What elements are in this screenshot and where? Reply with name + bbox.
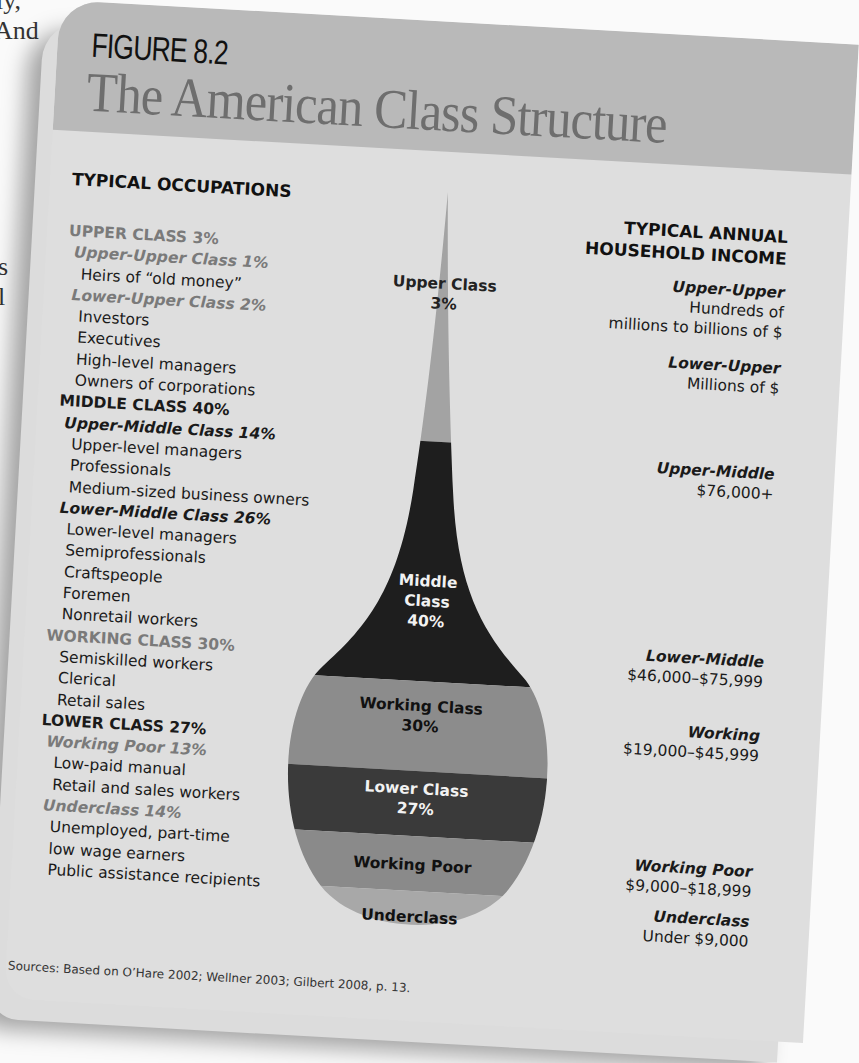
source-citation: Sources: Based on O’Hare 2002; Wellner 2… — [8, 959, 411, 995]
background-page-text: s — [0, 252, 8, 282]
background-page-text: ly, — [0, 0, 21, 16]
occupations-header: TYPICAL OCCUPATIONS — [71, 169, 292, 201]
figure-header: FIGURE 8.2 The American Class Structure — [53, 0, 859, 174]
background-page-text: l — [0, 282, 5, 312]
figure-card: FIGURE 8.2 The American Class Structure … — [4, 0, 859, 1043]
figure-title: The American Class Structure — [85, 60, 669, 156]
income-header: TYPICAL ANNUAL HOUSEHOLD INCOME — [566, 214, 788, 270]
label-middle-class: Middle Class 40% — [345, 567, 508, 636]
background-page-text: And — [0, 16, 39, 46]
